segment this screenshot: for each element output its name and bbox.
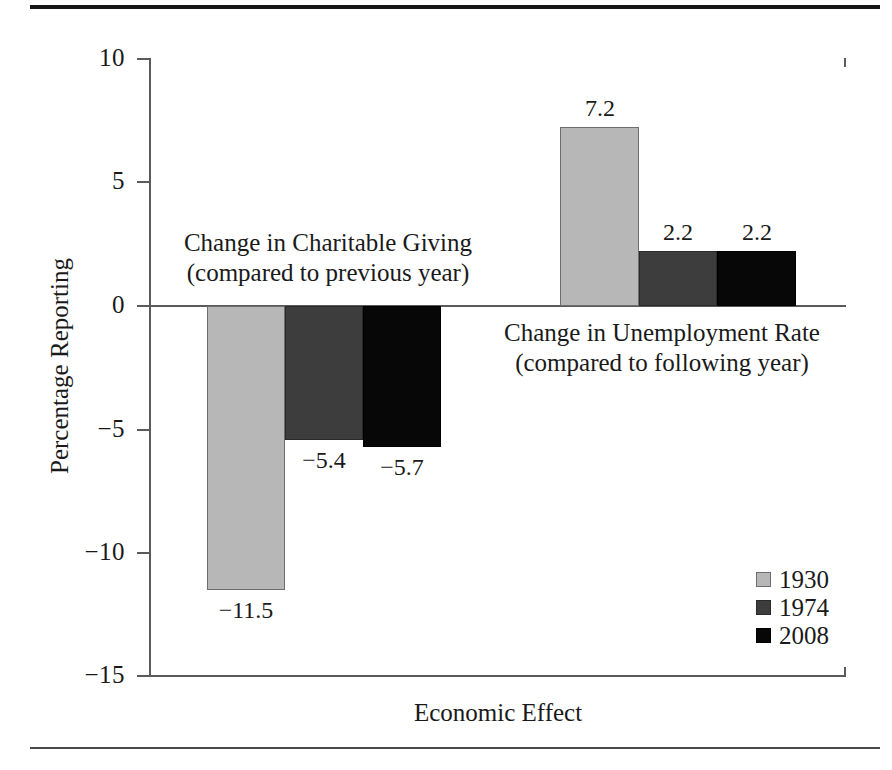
legend-label-2008: 2008 <box>779 623 829 648</box>
y-axis-title: Percentage Reporting <box>46 156 74 576</box>
annotation-unemployment-rate: Change in Unemployment Rate (compared to… <box>486 318 838 378</box>
y-tick--10 <box>137 552 150 554</box>
y-axis-line <box>149 58 151 677</box>
axis-cap-top-right <box>844 58 846 67</box>
legend-swatch-2008-icon <box>756 628 771 643</box>
x-axis-title: Economic Effect <box>150 699 846 727</box>
plot-area: 10 5 0 −5 −10 −15 Percentage Reporting E… <box>0 0 892 770</box>
bar-2008-charitable-giving <box>363 306 441 447</box>
legend-item-2008: 2008 <box>756 622 856 648</box>
chart-figure: 10 5 0 −5 −10 −15 Percentage Reporting E… <box>0 0 892 770</box>
chart-legend: 1930 1974 2008 <box>756 566 856 650</box>
y-tick--5 <box>137 429 150 431</box>
bar-value-1930-charitable-giving: −11.5 <box>186 597 306 623</box>
annotation-unemployment-rate-line2: (compared to following year) <box>486 348 838 378</box>
legend-label-1974: 1974 <box>779 595 829 620</box>
bar-value-1930-unemployment-rate: 7.2 <box>540 95 660 121</box>
annotation-charitable-giving: Change in Charitable Giving (compared to… <box>172 228 484 288</box>
legend-item-1974: 1974 <box>756 594 856 620</box>
bar-2008-unemployment-rate <box>717 251 796 306</box>
y-tick-10 <box>137 58 150 60</box>
legend-label-1930: 1930 <box>779 567 829 592</box>
bar-value-2008-charitable-giving: −5.7 <box>342 454 462 480</box>
y-tick--15 <box>137 675 150 677</box>
x-axis-line <box>150 675 846 677</box>
y-tick-5 <box>137 181 150 183</box>
bar-value-2008-unemployment-rate: 2.2 <box>697 219 817 245</box>
annotation-charitable-giving-line1: Change in Charitable Giving <box>172 228 484 258</box>
y-tick-label--15: −15 <box>55 662 125 687</box>
legend-item-1930: 1930 <box>756 566 856 592</box>
annotation-charitable-giving-line2: (compared to previous year) <box>172 258 484 288</box>
legend-swatch-1930-icon <box>756 572 771 587</box>
annotation-unemployment-rate-line1: Change in Unemployment Rate <box>486 318 838 348</box>
y-tick-label-10: 10 <box>55 45 125 70</box>
bar-1974-charitable-giving <box>285 306 363 440</box>
axis-cap-bottom-right <box>844 667 846 676</box>
bar-1930-unemployment-rate <box>560 127 639 306</box>
legend-swatch-1974-icon <box>756 600 771 615</box>
y-tick-0 <box>137 305 150 307</box>
bar-1974-unemployment-rate <box>639 251 717 306</box>
